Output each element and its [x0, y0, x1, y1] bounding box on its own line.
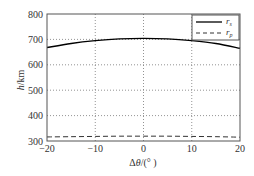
y-axis-label: h/km: [15, 70, 26, 91]
y-tick-label: 500: [28, 85, 43, 96]
x-tick-label: 20: [235, 143, 245, 154]
y-tick-label: 400: [28, 110, 43, 121]
line-chart: 300400500600700800 −20−1001020 h/km Δθ/(…: [0, 0, 254, 176]
x-axis-label: Δθ/(° ): [129, 157, 156, 169]
x-axis-ticks: −20−1001020: [39, 143, 245, 154]
legend: rs rp: [192, 15, 239, 40]
y-tick-label: 700: [28, 34, 43, 45]
x-tick-label: 0: [141, 143, 146, 154]
x-tick-label: 10: [187, 143, 197, 154]
y-tick-label: 800: [28, 9, 43, 20]
y-tick-label: 600: [28, 59, 43, 70]
x-tick-label: −20: [39, 143, 55, 154]
x-tick-label: −10: [87, 143, 103, 154]
y-axis-ticks: 300400500600700800: [28, 9, 43, 147]
